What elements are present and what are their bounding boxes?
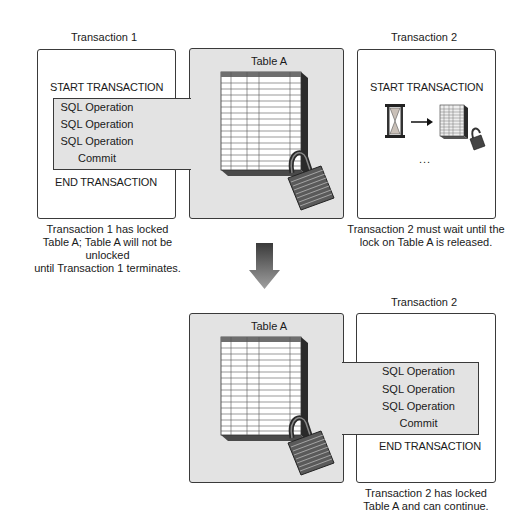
transaction2-title: Transaction 2 xyxy=(374,296,474,308)
transaction1-caption: Transaction 1 has locked Table A; Table … xyxy=(20,223,195,275)
operation-item: SQL Operation xyxy=(350,365,487,377)
table-a-title: Table A xyxy=(239,55,299,67)
caption-line: lock on Table A is released. xyxy=(340,236,512,249)
transaction2-operations: SQL Operation SQL Operation SQL Operatio… xyxy=(342,362,479,435)
operation-item: SQL Operation xyxy=(28,135,166,147)
transaction1-title: Transaction 1 xyxy=(54,31,154,43)
caption-line: Table A; Table A will not be unlocked xyxy=(20,236,195,262)
waiting-for-lock-graphic xyxy=(384,103,489,153)
transaction2-start-label: START TRANSACTION xyxy=(370,81,483,93)
transaction2-title: Transaction 2 xyxy=(374,31,474,43)
transaction1-operations: SQL Operation SQL Operation SQL Operatio… xyxy=(53,98,191,170)
ellipsis: ... xyxy=(405,153,445,165)
arrow-right-icon xyxy=(411,118,433,126)
down-arrow-icon xyxy=(250,242,282,292)
transaction2-locked-caption: Transaction 2 has locked Table A and can… xyxy=(345,487,507,513)
operation-item: SQL Operation xyxy=(28,118,166,130)
table-a-title: Table A xyxy=(239,320,299,332)
table-icon xyxy=(440,105,468,139)
caption-line: Table A and can continue. xyxy=(345,500,507,513)
caption-line: Transaction 2 has locked xyxy=(345,487,507,500)
transaction1-start-label: START TRANSACTION xyxy=(50,81,163,93)
operation-item: Commit xyxy=(350,417,487,429)
transaction2-wait-caption: Transaction 2 must wait until the lock o… xyxy=(340,223,512,249)
locked-table-icon xyxy=(218,335,338,480)
transaction2-end-label: END TRANSACTION xyxy=(379,440,481,452)
caption-line: until Transaction 1 terminates. xyxy=(20,262,195,275)
operation-item: SQL Operation xyxy=(350,383,487,395)
locked-table-icon xyxy=(218,70,338,215)
operation-item: SQL Operation xyxy=(350,400,487,412)
padlock-icon xyxy=(470,129,485,150)
operation-item: SQL Operation xyxy=(28,101,166,113)
hourglass-icon xyxy=(385,104,405,138)
operation-item: Commit xyxy=(28,152,166,164)
transaction1-end-label: END TRANSACTION xyxy=(55,176,157,188)
caption-line: Transaction 2 must wait until the xyxy=(340,223,512,236)
caption-line: Transaction 1 has locked xyxy=(20,223,195,236)
